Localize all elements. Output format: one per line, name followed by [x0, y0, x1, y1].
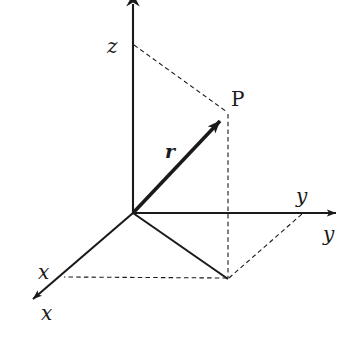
dashed-line-z-to-p [134, 45, 227, 112]
z-axis-label: z [107, 36, 118, 56]
dashed-line-foot-to-y-tick [229, 214, 302, 278]
position-vector-r [133, 121, 220, 213]
coordinate-system-diagram: z y y x x P r [0, 0, 355, 353]
diagram-canvas [0, 0, 355, 353]
vector-r-label: r [165, 142, 175, 161]
coordinate-axes [33, 4, 336, 299]
y-axis-label-upper: y [296, 186, 307, 206]
x-axis-line [33, 213, 133, 299]
origin-to-foot-line [133, 213, 228, 279]
xy-plane-projection-lines [133, 213, 228, 279]
y-axis-label-lower: y [323, 224, 334, 244]
x-axis-label-lower: x [41, 303, 52, 323]
x-axis-label-upper: x [38, 262, 49, 282]
point-p-label: P [231, 89, 244, 109]
vector-r-shaft [133, 121, 220, 213]
dashed-line-foot-to-x-tick [64, 277, 227, 278]
